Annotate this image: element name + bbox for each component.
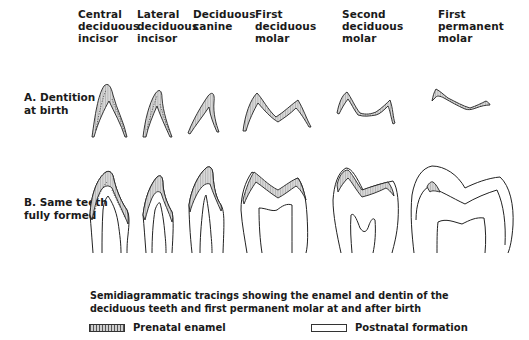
- caption-line: deciduous teeth and first permanent mola…: [90, 303, 449, 316]
- tooth-tracings: [0, 0, 529, 290]
- legend-label: Prenatal enamel: [133, 322, 226, 333]
- tooth-a-lateral-incisor: [143, 91, 172, 137]
- tooth-a-first-deciduous-molar: [243, 93, 311, 131]
- caption-line: Semidiagrammatic tracings showing the en…: [90, 290, 449, 303]
- tooth-b-lateral-incisor: [143, 176, 173, 253]
- tooth-b-canine: [189, 167, 224, 253]
- figure-caption: Semidiagrammatic tracings showing the en…: [90, 290, 449, 315]
- tooth-b-first-deciduous-molar: [241, 172, 308, 253]
- legend-prenatal-enamel: Prenatal enamel: [89, 322, 226, 333]
- legend-postnatal-formation: Postnatal formation: [311, 322, 468, 333]
- tooth-a-canine: [188, 93, 219, 134]
- tooth-b-first-permanent-molar: [411, 166, 513, 253]
- tooth-a-second-deciduous-molar: [337, 92, 395, 124]
- tooth-b-central-incisor: [90, 171, 129, 253]
- postnatal-formation-swatch: [311, 324, 347, 332]
- tooth-a-central-incisor: [92, 84, 127, 137]
- prenatal-enamel-swatch: [89, 324, 125, 332]
- legend-label: Postnatal formation: [355, 322, 468, 333]
- tooth-b-second-deciduous-molar: [333, 168, 398, 253]
- tooth-a-first-permanent-molar: [432, 89, 490, 110]
